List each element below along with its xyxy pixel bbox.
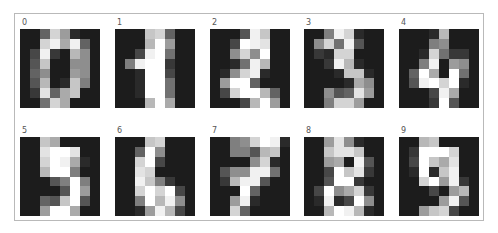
digit-label: 8 — [306, 127, 311, 135]
digit-image — [304, 29, 384, 108]
digit-image — [399, 29, 479, 108]
digit-image — [115, 137, 195, 216]
digit-label: 3 — [306, 19, 311, 27]
digit-label: 9 — [401, 127, 406, 135]
digit-image — [20, 137, 100, 216]
digit-label: 2 — [212, 19, 217, 27]
digit-image — [115, 29, 195, 108]
digit-image — [304, 137, 384, 216]
digit-label: 1 — [117, 19, 122, 27]
digit-label: 6 — [117, 127, 122, 135]
digit-label: 7 — [212, 127, 217, 135]
digit-image — [399, 137, 479, 216]
digit-image — [210, 137, 290, 216]
digit-label: 4 — [401, 19, 406, 27]
digit-label: 5 — [22, 127, 27, 135]
digit-image — [210, 29, 290, 108]
digit-image — [20, 29, 100, 108]
digit-label: 0 — [22, 19, 27, 27]
